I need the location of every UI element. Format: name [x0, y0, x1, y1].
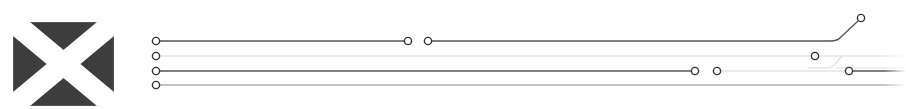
node-line-3-start [152, 67, 159, 74]
node-line-3-gap-left [691, 67, 698, 74]
track-line-2 [160, 56, 906, 68]
node-line-1-branch-end [857, 14, 864, 21]
node-line-1-gap-right [424, 37, 431, 44]
right-edge-fade [884, 0, 906, 109]
node-line-2-start [152, 52, 159, 59]
node-line-3-tail-start [845, 67, 852, 74]
node-line-3-gap-right [713, 67, 720, 74]
node-line-2-switch [811, 52, 818, 59]
track-line-1 [160, 21, 858, 41]
node-line-1-gap-left [404, 37, 411, 44]
track-diagram [0, 0, 906, 109]
node-line-1-start [152, 37, 159, 44]
node-line-4-start [152, 81, 159, 88]
